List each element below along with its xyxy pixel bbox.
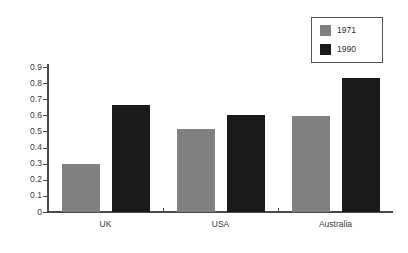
y-axis-tick-label: 0.9 [14, 63, 42, 72]
y-axis-tick-label: 0.1 [14, 191, 42, 200]
y-axis-tick [43, 212, 48, 213]
bar-chart: 0.90.80.70.60.50.40.30.20.10 UKUSAAustra… [0, 0, 408, 253]
legend: 1971 1990 [311, 17, 383, 63]
y-axis-tick-label-text: 0.9 [20, 63, 42, 72]
y-axis-tick-label: 0.4 [14, 143, 42, 152]
y-axis-tick-label: 0 [14, 208, 42, 217]
y-axis-tick-label-text: 0 [20, 208, 42, 217]
y-axis-tick-label-text: 0.5 [20, 127, 42, 136]
bar-usa-1990 [227, 115, 265, 212]
x-axis-label-uk: UK [48, 219, 163, 229]
y-axis-tick-label: 0.2 [14, 175, 42, 184]
y-axis-tick-label: 0.5 [14, 127, 42, 136]
y-axis-tick-label: 0.7 [14, 95, 42, 104]
legend-label-1990: 1990 [337, 44, 356, 55]
y-axis-tick-label: 0.6 [14, 111, 42, 120]
bar-australia-1990 [342, 78, 380, 212]
bar-uk-1990 [112, 105, 150, 212]
y-axis-tick-label-text: 0.2 [20, 175, 42, 184]
y-axis-tick-label: 0.3 [14, 159, 42, 168]
legend-item-1971: 1971 [320, 24, 356, 36]
bar-australia-1971 [292, 116, 330, 212]
x-axis-label-australia: Australia [278, 219, 393, 229]
y-axis-tick-label-text: 0.3 [20, 159, 42, 168]
y-axis-tick-label-text: 0.7 [20, 95, 42, 104]
legend-label-1971: 1971 [337, 25, 356, 36]
y-axis-tick-label-text: 0.1 [20, 191, 42, 200]
legend-swatch-1971 [320, 25, 331, 36]
y-axis-tick-label-text: 0.8 [20, 79, 42, 88]
y-axis-tick-label: 0.8 [14, 79, 42, 88]
y-axis-tick-label-text: 0.4 [20, 143, 42, 152]
x-axis-label-usa: USA [163, 219, 278, 229]
bar-uk-1971 [62, 164, 100, 212]
bar-usa-1971 [177, 129, 215, 212]
legend-swatch-1990 [320, 44, 331, 55]
legend-item-1990: 1990 [320, 43, 356, 55]
plot-area [48, 67, 393, 212]
y-axis-tick-label-text: 0.6 [20, 111, 42, 120]
